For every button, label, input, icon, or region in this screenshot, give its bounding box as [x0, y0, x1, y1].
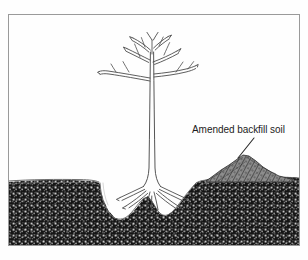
amended-backfill-soil-label: Amended backfill soil — [192, 124, 285, 135]
planting-diagram-svg: Amended backfill soil — [0, 0, 308, 260]
illustration-figure: Amended backfill soil — [0, 0, 308, 260]
